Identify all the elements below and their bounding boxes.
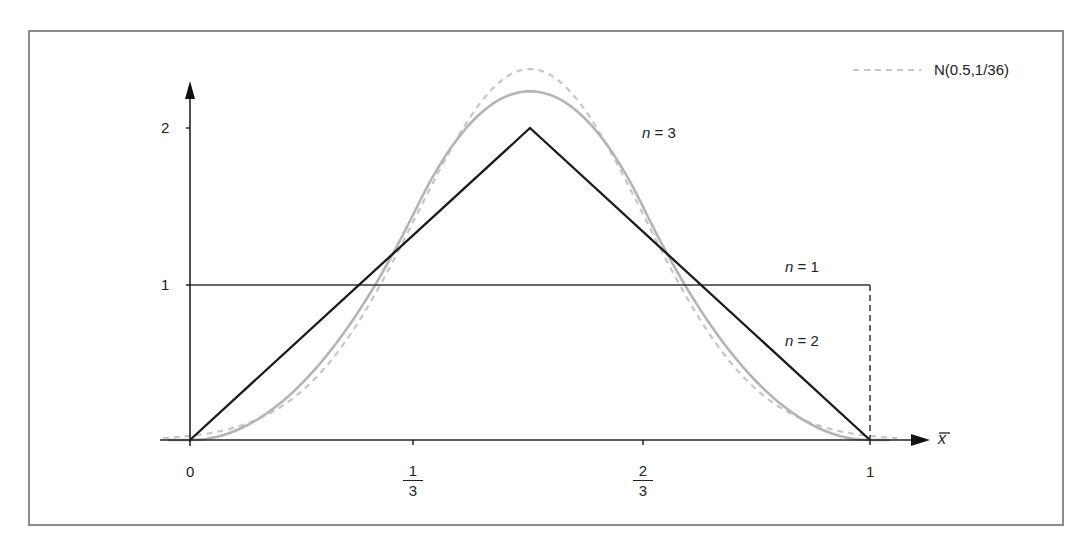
annotation-n2: n = 2 <box>785 332 819 349</box>
x-tick-label-twothird: 2 3 <box>633 462 653 501</box>
frac-den: 3 <box>403 481 423 501</box>
frac-num: 2 <box>633 462 653 481</box>
frac-den: 3 <box>633 481 653 501</box>
annotation-n1-rest: = 1 <box>793 258 818 275</box>
x-axis-arrow-icon <box>911 434 930 446</box>
normal-curve <box>163 69 897 438</box>
y-tick-label-2: 2 <box>161 119 169 136</box>
x-axis-label: x <box>938 430 946 448</box>
x-tick-label-0: 0 <box>186 463 194 480</box>
y-tick-label-1: 1 <box>161 276 169 293</box>
y-axis-arrow-icon <box>185 81 195 99</box>
annotation-n1: n = 1 <box>785 258 819 275</box>
x-tick-label-1: 1 <box>866 463 874 480</box>
x-tick-label-third: 1 3 <box>403 462 423 501</box>
legend-label-normal: N(0.5,1/36) <box>934 61 1009 78</box>
annotation-n3-rest: = 3 <box>650 124 675 141</box>
frac-num: 1 <box>403 462 423 481</box>
chart-plot <box>0 0 1089 547</box>
n3-curve <box>168 91 890 440</box>
annotation-n3: n = 3 <box>642 124 676 141</box>
annotation-n2-rest: = 2 <box>793 332 818 349</box>
